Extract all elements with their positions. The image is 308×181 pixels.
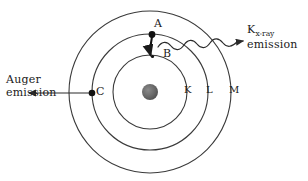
shell-label-k: K bbox=[184, 85, 192, 96]
atomic-shell-diagram: A B C K L M Kx-ray emission Auger emissi… bbox=[0, 0, 308, 181]
shell-label-l: L bbox=[206, 85, 213, 96]
auger-emission-label: Auger emission bbox=[6, 74, 57, 98]
point-b-dot bbox=[151, 55, 154, 58]
point-label-b: B bbox=[163, 48, 171, 60]
point-c-dot bbox=[89, 90, 96, 97]
xray-subscript: x-ray bbox=[255, 29, 274, 38]
point-label-a: A bbox=[154, 18, 162, 30]
point-label-c: C bbox=[96, 86, 105, 98]
xray-emission-label: Kx-ray emission bbox=[247, 24, 298, 51]
auger-emission-line2: emission bbox=[6, 87, 57, 99]
xray-emission-line2: emission bbox=[247, 39, 298, 51]
electron-transition-arrow bbox=[150, 36, 152, 55]
point-a-dot bbox=[149, 31, 156, 38]
shell-label-m: M bbox=[229, 85, 239, 96]
nucleus bbox=[142, 84, 158, 100]
auger-emission-line1: Auger bbox=[6, 73, 41, 86]
